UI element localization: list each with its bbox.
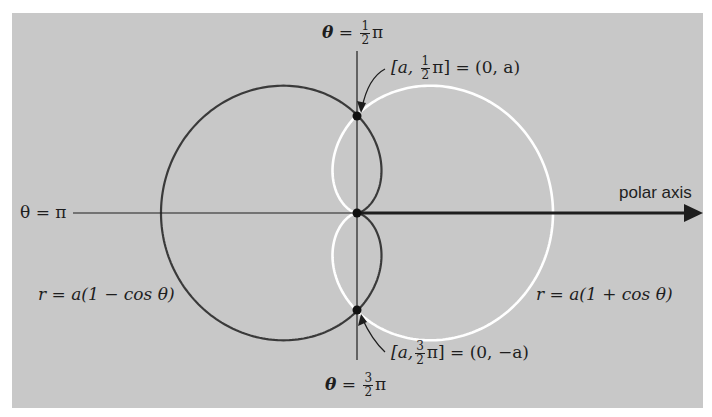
polar-axis-text: polar axis — [619, 183, 692, 202]
denominator: 2 — [363, 386, 373, 399]
annotation-suffix: π] = (0, a) — [432, 57, 520, 77]
equation-plus-text: r = a(1 + cos θ) — [536, 284, 673, 304]
annotation-prefix: [a, — [391, 342, 413, 362]
polar-axis-label: polar axis — [619, 184, 692, 201]
pi-symbol: π — [375, 374, 386, 394]
fraction: 12 — [421, 55, 431, 81]
lower-intersection-point — [353, 306, 362, 315]
theta-symbol: θ — [322, 22, 333, 42]
origin-point — [353, 209, 362, 218]
numerator: 3 — [415, 340, 425, 354]
denominator: 2 — [415, 354, 425, 367]
top-axis-label: θ = 12π — [322, 20, 383, 46]
theta-pi-text: θ = π — [20, 202, 66, 222]
right-equation-label: r = a(1 + cos θ) — [536, 286, 673, 303]
equals-sign: = — [342, 374, 356, 394]
annotation-suffix: π] = (0, −a) — [427, 342, 529, 362]
left-axis-label: θ = π — [20, 204, 66, 221]
numerator: 1 — [360, 20, 370, 34]
left-equation-label: r = a(1 − cos θ) — [38, 286, 175, 303]
numerator: 1 — [421, 55, 431, 69]
fraction: 32 — [363, 372, 373, 398]
theta-symbol: θ — [325, 374, 336, 394]
equals-sign: = — [339, 22, 353, 42]
fraction: 12 — [360, 20, 370, 46]
lower-point-annotation: [a,32π] = (0, −a) — [391, 340, 529, 366]
denominator: 2 — [360, 34, 370, 47]
annotation-prefix: [a, — [391, 57, 413, 77]
polar-diagram — [0, 0, 712, 417]
equation-minus-text: r = a(1 − cos θ) — [38, 284, 175, 304]
polar-axis-arrowhead-icon — [684, 204, 703, 222]
pi-symbol: π — [372, 22, 383, 42]
numerator: 3 — [363, 372, 373, 386]
upper-intersection-point — [353, 112, 362, 121]
bottom-axis-label: θ = 32π — [325, 372, 386, 398]
fraction: 32 — [415, 340, 425, 366]
denominator: 2 — [421, 69, 431, 82]
upper-point-annotation: [a, 12π] = (0, a) — [391, 55, 520, 81]
